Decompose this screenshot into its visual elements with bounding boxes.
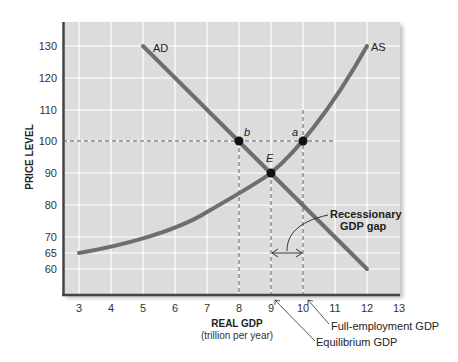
svg-text:4: 4 <box>108 302 114 314</box>
svg-text:65: 65 <box>45 247 57 259</box>
point-a-label: a <box>292 126 298 138</box>
x-axis-title: REAL GDP <box>211 318 263 329</box>
svg-text:80: 80 <box>45 199 57 211</box>
ad-as-chart: b a E AD AS Recessionary GDP gap 130 120… <box>0 0 458 362</box>
as-label: AS <box>371 41 386 53</box>
svg-text:8: 8 <box>236 302 242 314</box>
y-tick-labels: 130 120 110 100 90 80 70 65 60 <box>39 40 57 275</box>
x-tick-labels: 3 4 5 6 7 8 9 10 11 12 13 <box>76 302 405 314</box>
equilibrium-label: Equilibrium GDP <box>316 336 397 348</box>
svg-text:9: 9 <box>268 302 274 314</box>
gap-label-line1: Recessionary <box>330 208 402 220</box>
svg-text:6: 6 <box>172 302 178 314</box>
point-b-label: b <box>244 126 250 138</box>
svg-text:7: 7 <box>204 302 210 314</box>
svg-text:13: 13 <box>393 302 405 314</box>
svg-text:10: 10 <box>297 302 309 314</box>
gap-label-line2: GDP gap <box>340 220 387 232</box>
svg-text:12: 12 <box>361 302 373 314</box>
svg-text:5: 5 <box>140 302 146 314</box>
svg-text:90: 90 <box>45 167 57 179</box>
ad-label: AD <box>153 42 168 54</box>
svg-text:70: 70 <box>45 231 57 243</box>
svg-text:11: 11 <box>329 302 340 314</box>
svg-text:100: 100 <box>39 135 57 147</box>
svg-text:110: 110 <box>39 104 57 116</box>
svg-text:3: 3 <box>76 302 82 314</box>
point-b <box>235 137 244 146</box>
x-axis-subtitle: (trillion per year) <box>201 330 273 341</box>
point-e <box>267 169 276 178</box>
svg-text:60: 60 <box>45 263 57 275</box>
point-e-label: E <box>266 152 274 164</box>
svg-text:120: 120 <box>39 72 57 84</box>
y-axis-title: PRICE LEVEL <box>24 124 35 190</box>
svg-text:130: 130 <box>39 40 57 52</box>
point-a <box>299 137 308 146</box>
full-employment-label: Full-employment GDP <box>331 320 439 332</box>
